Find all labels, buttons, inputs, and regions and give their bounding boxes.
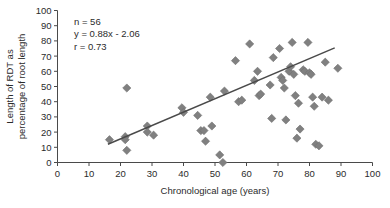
scatter-chart: 0102030405060708090100 01020304050607080… — [0, 0, 390, 208]
y-tick-label: 20 — [41, 127, 52, 138]
y-axis-title: percentage of root length — [16, 34, 27, 140]
x-tick-label: 50 — [210, 168, 221, 179]
x-tick-label: 40 — [178, 168, 189, 179]
x-axis: 0102030405060708090100 — [55, 163, 381, 179]
y-tick-label: 80 — [41, 35, 52, 46]
data-point — [334, 64, 342, 72]
y-tick-label: 60 — [41, 66, 52, 77]
data-point — [293, 134, 301, 142]
x-tick-label: 0 — [55, 168, 60, 179]
data-point — [216, 151, 224, 159]
x-axis-title: Chronological age (years) — [161, 185, 270, 196]
data-point — [269, 54, 277, 62]
x-tick-label: 90 — [336, 168, 347, 179]
data-point — [310, 102, 318, 110]
data-point — [201, 137, 209, 145]
x-tick-label: 30 — [147, 168, 158, 179]
annotation-line: n = 56 — [74, 16, 101, 27]
y-tick-label: 50 — [41, 81, 52, 92]
data-point — [194, 111, 202, 119]
data-point — [219, 158, 227, 166]
y-tick-label: 0 — [46, 157, 51, 168]
y-tick-label: 40 — [41, 96, 52, 107]
data-point — [309, 93, 317, 101]
data-point — [208, 122, 216, 130]
x-tick-label: 100 — [365, 168, 381, 179]
data-point — [123, 84, 131, 92]
x-tick-label: 80 — [304, 168, 315, 179]
y-axis: 0102030405060708090100 — [36, 5, 58, 168]
data-point — [291, 92, 299, 100]
data-point — [231, 57, 239, 65]
x-tick-label: 60 — [241, 168, 252, 179]
data-point — [294, 99, 302, 107]
x-tick-label: 70 — [273, 168, 284, 179]
data-point — [296, 125, 304, 133]
data-point — [275, 44, 283, 52]
y-tick-label: 70 — [41, 51, 52, 62]
annotation-line: r = 0.73 — [74, 41, 106, 52]
x-tick-label: 10 — [84, 168, 95, 179]
data-point — [246, 40, 254, 48]
annotation-line: y = 0.88x - 2.06 — [74, 28, 140, 39]
y-tick-label: 30 — [41, 111, 52, 122]
statistics-annotation: n = 56y = 0.88x - 2.06r = 0.73 — [74, 16, 140, 52]
x-tick-label: 20 — [115, 168, 126, 179]
y-tick-label: 100 — [36, 5, 52, 16]
plot-area: 0102030405060708090100 01020304050607080… — [4, 5, 381, 196]
y-tick-label: 90 — [41, 20, 52, 31]
data-point — [253, 67, 261, 75]
data-point — [282, 116, 290, 124]
y-tick-label: 10 — [41, 142, 52, 153]
data-point — [304, 38, 312, 46]
data-point — [266, 81, 274, 89]
data-point — [321, 58, 329, 66]
data-point — [288, 38, 296, 46]
data-point — [280, 84, 288, 92]
data-points — [105, 38, 342, 166]
data-point — [268, 114, 276, 122]
y-axis-title: Length of RDT as — [4, 49, 15, 124]
chart-canvas: 0102030405060708090100 01020304050607080… — [0, 0, 390, 208]
data-point — [123, 146, 131, 154]
